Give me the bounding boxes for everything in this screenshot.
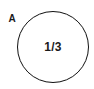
circle-figure: 1/3 xyxy=(17,11,89,83)
figure-panel: A 1/3 xyxy=(0,0,94,89)
fraction-label: 1/3 xyxy=(17,11,89,83)
